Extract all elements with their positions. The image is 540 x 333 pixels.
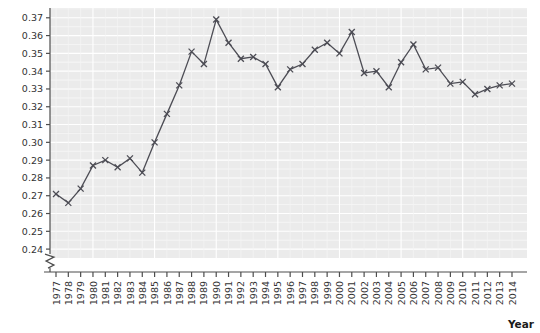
- plot-area-background: [50, 8, 527, 258]
- plot-canvas: 0.240.250.260.270.280.290.300.310.320.33…: [0, 0, 540, 333]
- plot-background-group: [50, 8, 527, 258]
- x-tick-label: 1989: [198, 281, 209, 305]
- x-tick-label: 2010: [457, 281, 468, 305]
- x-tick-label: 2012: [482, 281, 493, 305]
- x-axis-title: Year: [508, 318, 534, 330]
- x-tick-label: 2014: [507, 281, 518, 305]
- x-tick-label: 2005: [396, 281, 407, 305]
- x-tick-label: 1999: [322, 281, 333, 305]
- gini-coefficient-line-chart: Gini coefficient Year 0.240.250.260.270.…: [0, 0, 540, 333]
- x-tick-label: 2002: [359, 281, 370, 305]
- x-tick-label: 1996: [285, 281, 296, 305]
- x-tick-label: 1994: [260, 281, 271, 305]
- y-tick-label: 0.28: [22, 172, 43, 183]
- y-tick-label: 0.30: [22, 137, 43, 148]
- x-tick-label: 1993: [248, 281, 259, 305]
- x-tick-label: 1995: [272, 281, 283, 305]
- x-tick-label: 1978: [63, 281, 74, 305]
- x-tick-label: 1985: [149, 281, 160, 305]
- y-tick-label: 0.29: [22, 155, 43, 166]
- x-tick-label: 2013: [494, 281, 505, 305]
- x-tick-label: 1992: [235, 281, 246, 305]
- y-tick-label: 0.36: [22, 30, 43, 41]
- x-axis-ticks: 1977197819791980198119821983198419851986…: [51, 272, 518, 305]
- x-tick-label: 1998: [309, 281, 320, 305]
- x-tick-label: 2007: [420, 281, 431, 305]
- x-tick-label: 1982: [112, 281, 123, 305]
- x-tick-label: 1977: [51, 281, 62, 305]
- x-tick-label: 1991: [223, 281, 234, 305]
- y-tick-label: 0.34: [22, 66, 43, 77]
- x-tick-label: 1980: [88, 281, 99, 305]
- y-axis-break-symbol: [45, 254, 54, 268]
- x-tick-label: 1984: [137, 281, 148, 305]
- x-tick-label: 2003: [371, 281, 382, 305]
- y-tick-label: 0.31: [22, 119, 43, 130]
- y-tick-label: 0.32: [22, 101, 43, 112]
- y-tick-label: 0.25: [22, 226, 43, 237]
- x-tick-label: 1979: [75, 281, 86, 305]
- x-tick-label: 2001: [346, 281, 357, 305]
- y-tick-label: 0.24: [22, 244, 43, 255]
- y-axis-ticks: 0.240.250.260.270.280.290.300.310.320.33…: [22, 12, 50, 254]
- y-tick-label: 0.37: [22, 12, 43, 23]
- x-tick-label: 1986: [162, 281, 173, 305]
- y-tick-label: 0.35: [22, 48, 43, 59]
- x-tick-label: 2006: [408, 281, 419, 305]
- x-tick-label: 1997: [297, 281, 308, 305]
- x-tick-label: 1988: [186, 281, 197, 305]
- x-tick-label: 2004: [383, 281, 394, 305]
- x-tick-label: 2008: [433, 281, 444, 305]
- y-tick-label: 0.27: [22, 190, 43, 201]
- x-tick-label: 1990: [211, 281, 222, 305]
- x-tick-label: 1987: [174, 281, 185, 305]
- x-tick-label: 1981: [100, 281, 111, 305]
- x-tick-label: 2011: [470, 281, 481, 305]
- y-tick-label: 0.33: [22, 83, 43, 94]
- y-tick-label: 0.26: [22, 208, 43, 219]
- x-tick-label: 1983: [125, 281, 136, 305]
- x-tick-label: 2009: [445, 281, 456, 305]
- x-tick-label: 2000: [334, 281, 345, 305]
